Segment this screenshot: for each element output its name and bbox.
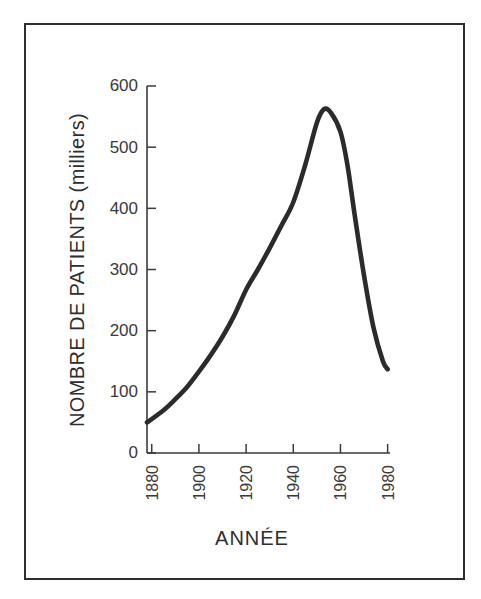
x-tick-label-group: 188019001920194019601980 [144, 465, 397, 501]
x-axis-title: ANNÉE [215, 527, 289, 549]
y-axis-title: NOMBRE DE PATIENTS (milliers) [66, 113, 88, 427]
y-tick-label: 300 [110, 260, 138, 279]
data-series-line [147, 109, 388, 423]
x-tick-label: 1880 [144, 465, 161, 501]
y-tick-label: 400 [110, 199, 138, 218]
x-tick-label: 1940 [285, 465, 302, 501]
y-tick-label: 600 [110, 76, 138, 95]
x-tick-label: 1960 [332, 465, 349, 501]
y-tick-label: 100 [110, 382, 138, 401]
line-chart: 0100200300400500600 18801900192019401960… [0, 0, 481, 599]
y-tick-group [147, 86, 156, 453]
y-tick-label-group: 0100200300400500600 [110, 76, 138, 462]
x-tick-label: 1920 [238, 465, 255, 501]
plot-area: 0100200300400500600 18801900192019401960… [0, 0, 481, 599]
y-tick-label: 200 [110, 321, 138, 340]
y-tick-label: 0 [129, 443, 138, 462]
chart-page: 0100200300400500600 18801900192019401960… [0, 0, 481, 599]
y-tick-label: 500 [110, 138, 138, 157]
x-tick-label: 1900 [191, 465, 208, 501]
x-tick-group [152, 444, 388, 453]
x-tick-label: 1980 [380, 465, 397, 501]
